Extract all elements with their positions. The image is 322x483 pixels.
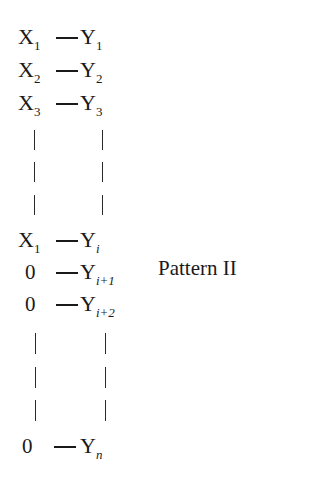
continuation-line-left xyxy=(34,130,35,150)
y-subscript: i+1 xyxy=(96,273,115,288)
y-term: Yi+2 xyxy=(80,292,115,316)
x-symbol: X xyxy=(18,227,34,252)
connector-dash xyxy=(56,304,78,306)
connector-dash xyxy=(56,240,78,242)
continuation-line-right xyxy=(105,333,106,354)
continuation-line-left xyxy=(35,333,36,354)
pattern-label: Pattern II xyxy=(158,256,237,280)
y-subscript: i xyxy=(96,241,100,256)
y-subscript: n xyxy=(96,447,103,462)
y-symbol: Y xyxy=(80,291,96,316)
y-subscript: 3 xyxy=(96,104,103,119)
continuation-line-right xyxy=(102,162,103,182)
pair-row-i: X1 Yi xyxy=(0,228,160,258)
pair-row-i-plus-1: 0 Yi+1 xyxy=(0,260,160,290)
x-symbol: X xyxy=(18,90,34,115)
y-symbol: Y xyxy=(80,227,96,252)
continuation-line-right xyxy=(102,195,103,215)
x-symbol: X xyxy=(18,57,34,82)
x-subscript: 1 xyxy=(34,38,41,53)
y-symbol: Y xyxy=(80,433,96,458)
y-term: Yi+1 xyxy=(80,260,115,284)
y-term: Yi xyxy=(80,228,100,252)
y-term: Y1 xyxy=(80,25,102,49)
continuation-line-left xyxy=(35,400,36,421)
continuation-line-left xyxy=(34,195,35,215)
x-subscript: 2 xyxy=(34,71,41,86)
y-symbol: Y xyxy=(80,90,96,115)
zero-term: 0 xyxy=(25,292,36,316)
x-subscript: 1 xyxy=(34,241,41,256)
x-term: X3 xyxy=(18,91,40,115)
connector-dash xyxy=(56,103,78,105)
pair-row-i-plus-2: 0 Yi+2 xyxy=(0,292,160,322)
zero-term: 0 xyxy=(25,260,36,284)
pair-row-2: X2 Y2 xyxy=(0,58,160,88)
y-term: Y3 xyxy=(80,91,102,115)
y-subscript: 2 xyxy=(96,71,103,86)
y-subscript: 1 xyxy=(96,38,103,53)
connector-dash xyxy=(56,37,78,39)
continuation-line-right xyxy=(102,130,103,150)
continuation-line-right xyxy=(105,367,106,388)
continuation-line-left xyxy=(35,367,36,388)
connector-dash xyxy=(56,272,78,274)
y-symbol: Y xyxy=(80,57,96,82)
x-term: X1 xyxy=(18,228,40,252)
y-term: Y2 xyxy=(80,58,102,82)
continuation-line-right xyxy=(105,400,106,421)
connector-dash xyxy=(54,446,76,448)
pair-row-3: X3 Y3 xyxy=(0,91,160,121)
y-subscript: i+2 xyxy=(96,305,115,320)
connector-dash xyxy=(56,70,78,72)
pair-row-n: 0 Yn xyxy=(0,434,160,464)
x-term: X1 xyxy=(18,25,40,49)
x-symbol: X xyxy=(18,24,34,49)
pair-row-1: X1 Y1 xyxy=(0,25,160,55)
y-term: Yn xyxy=(80,434,102,458)
y-symbol: Y xyxy=(80,24,96,49)
zero-term: 0 xyxy=(22,434,33,458)
x-subscript: 3 xyxy=(34,104,41,119)
x-term: X2 xyxy=(18,58,40,82)
y-symbol: Y xyxy=(80,259,96,284)
continuation-line-left xyxy=(34,162,35,182)
